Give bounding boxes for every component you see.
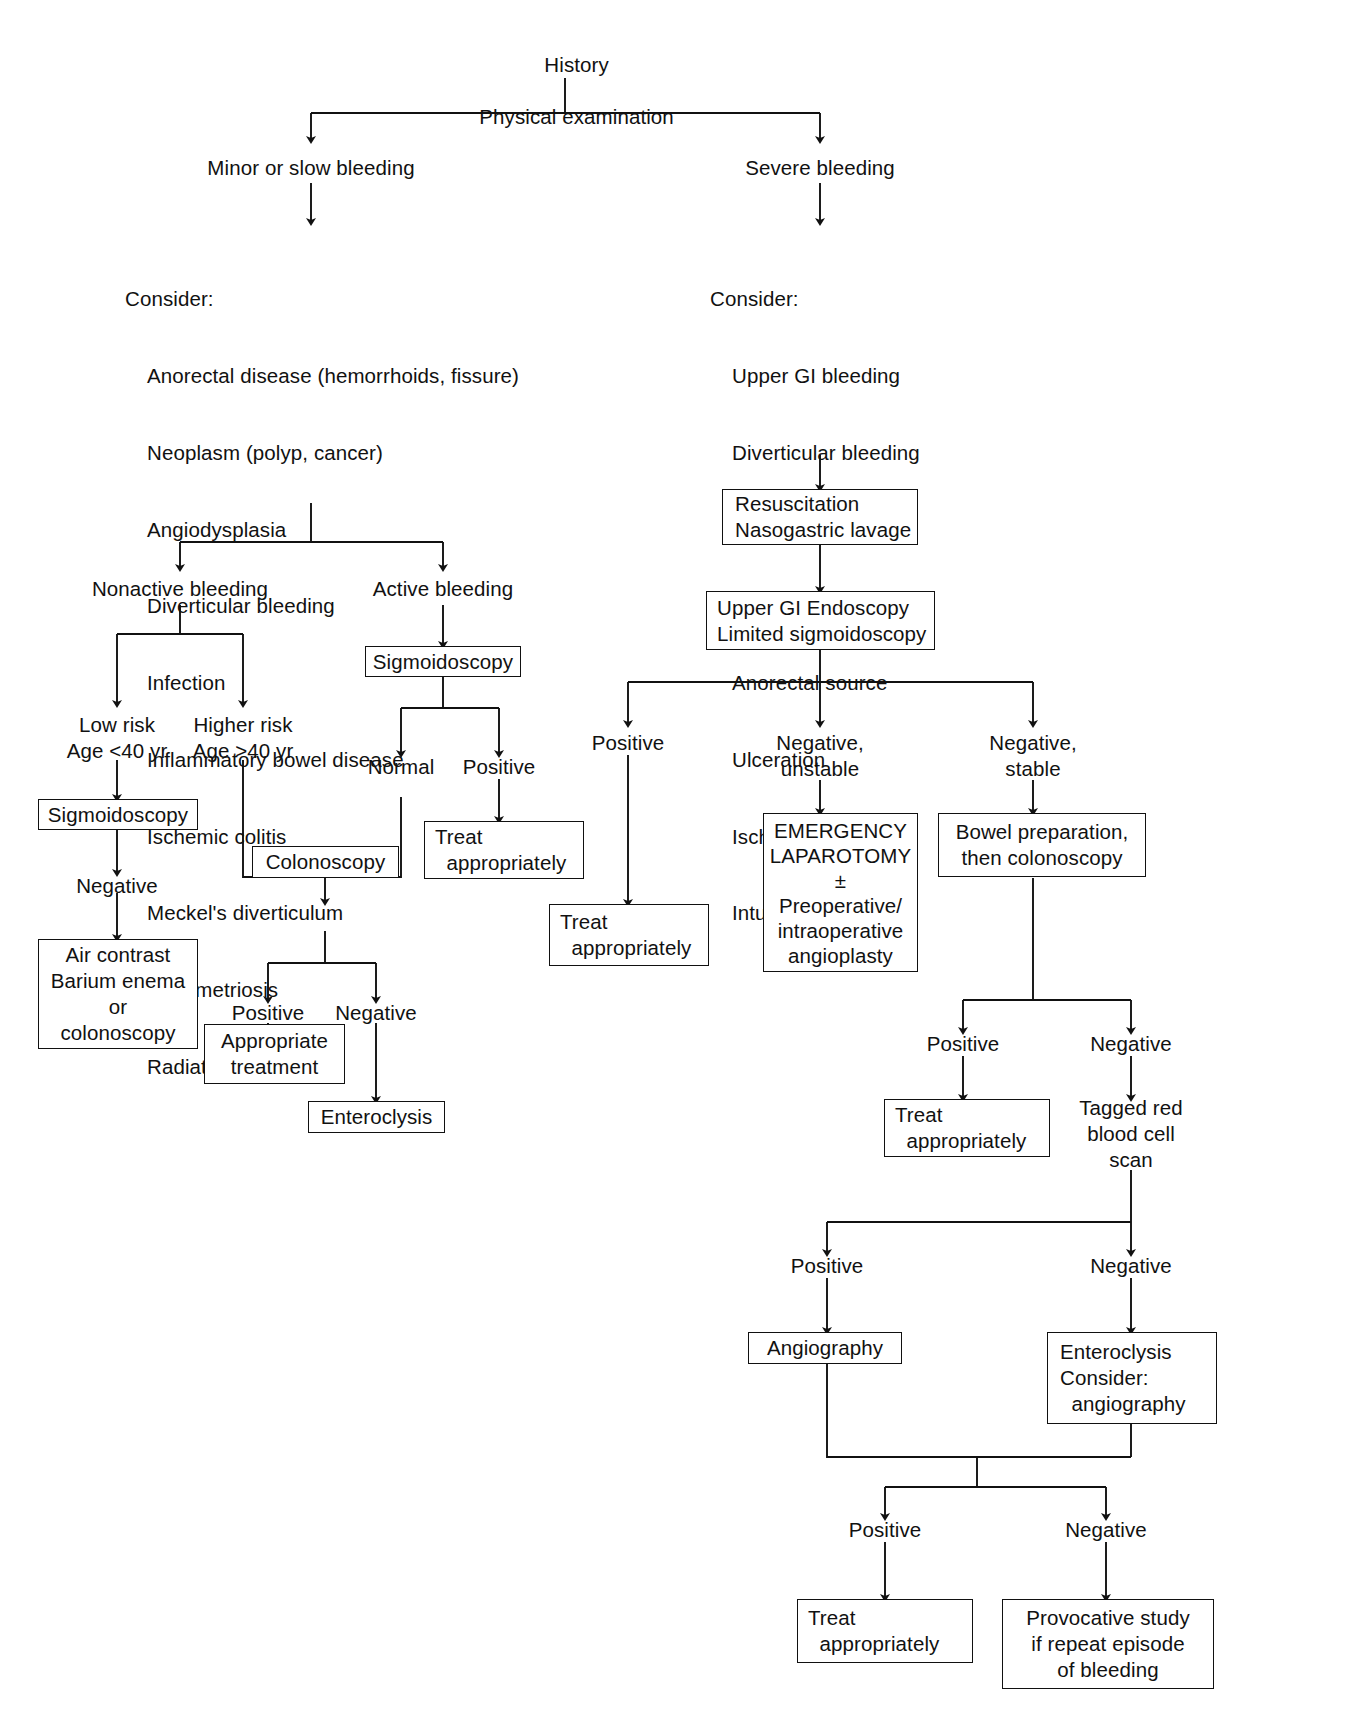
- label-higher-risk: Higher risk Age >40 yr: [163, 712, 323, 764]
- box-treat-appropriately-active: Treat appropriately: [424, 821, 584, 879]
- label-nonactive-bleeding: Nonactive bleeding: [60, 576, 300, 602]
- label-negative-stable: Negative, stable: [963, 730, 1103, 782]
- box-treat-appropriately-positive: Treat appropriately: [549, 904, 709, 966]
- label-positive-tagged-scan: Positive: [767, 1253, 887, 1279]
- consider-severe-item-4: Anorectal source: [710, 670, 920, 696]
- box-angiography: Angiography: [748, 1332, 902, 1364]
- branch-minor-slow-bleeding: Minor or slow bleeding: [161, 155, 461, 181]
- box-sigmoidoscopy-active: Sigmoidoscopy: [365, 646, 521, 677]
- consider-minor-item-1: Neoplasm (polyp, cancer): [125, 440, 519, 466]
- box-appropriate-treatment: Appropriate treatment: [204, 1024, 345, 1084]
- box-emergency-laparotomy: EMERGENCY LAPAROTOMY ± Preoperative/ int…: [763, 813, 918, 972]
- box-air-contrast-barium-enema: Air contrast Barium enema or colonoscopy: [38, 939, 198, 1049]
- label-negative-after-sigmoidoscopy: Negative: [47, 873, 187, 899]
- consider-minor-item-0: Anorectal disease (hemorrhoids, fissure): [125, 363, 519, 389]
- label-tagged-red-blood-cell-scan: Tagged red blood cell scan: [1066, 1095, 1196, 1173]
- label-negative-tagged-scan: Negative: [1068, 1253, 1194, 1279]
- box-enteroclysis-consider-angiography: Enteroclysis Consider: angiography: [1047, 1332, 1217, 1424]
- consider-minor-item-7: Meckel's diverticulum: [125, 900, 519, 926]
- consider-minor-header: Consider:: [125, 286, 519, 312]
- box-treat-appropriately-final: Treat appropriately: [797, 1599, 973, 1663]
- root-line-1: History: [544, 53, 608, 76]
- label-negative-final: Negative: [1043, 1517, 1169, 1543]
- box-provocative-study: Provocative study if repeat episode of b…: [1002, 1599, 1214, 1689]
- consider-severe-item-0: Upper GI bleeding: [710, 363, 920, 389]
- consider-severe-item-1: Diverticular bleeding: [710, 440, 920, 466]
- box-treat-appropriately-bowel: Treat appropriately: [884, 1099, 1050, 1157]
- consider-minor-item-2: Angiodysplasia: [125, 517, 519, 543]
- box-resuscitation-nasogastric: Resuscitation Nasogastric lavage: [722, 489, 918, 545]
- box-upper-gi-endoscopy: Upper GI Endoscopy Limited sigmoidoscopy: [706, 591, 935, 650]
- root-line-2: Physical examination: [479, 105, 674, 128]
- label-negative-colonoscopy: Negative: [314, 1000, 438, 1026]
- label-positive-upper-gi: Positive: [568, 730, 688, 756]
- label-positive-bowel-prep: Positive: [903, 1031, 1023, 1057]
- branch-severe-bleeding: Severe bleeding: [700, 155, 940, 181]
- box-enteroclysis-left: Enteroclysis: [308, 1101, 445, 1133]
- consider-severe-header: Consider:: [710, 286, 920, 312]
- label-active-bleeding: Active bleeding: [343, 576, 543, 602]
- box-sigmoidoscopy-low-risk: Sigmoidoscopy: [38, 799, 198, 830]
- label-negative-unstable: Negative, unstable: [750, 730, 890, 782]
- label-negative-bowel-prep: Negative: [1068, 1031, 1194, 1057]
- flowchart-canvas: History Physical examination Minor or sl…: [0, 0, 1364, 1734]
- box-colonoscopy: Colonoscopy: [252, 846, 399, 878]
- label-positive-colonoscopy: Positive: [208, 1000, 328, 1026]
- label-positive-active: Positive: [439, 754, 559, 780]
- root-history-physical: History Physical examination: [435, 26, 695, 156]
- label-positive-final: Positive: [825, 1517, 945, 1543]
- box-bowel-preparation-colonoscopy: Bowel preparation, then colonoscopy: [938, 813, 1146, 877]
